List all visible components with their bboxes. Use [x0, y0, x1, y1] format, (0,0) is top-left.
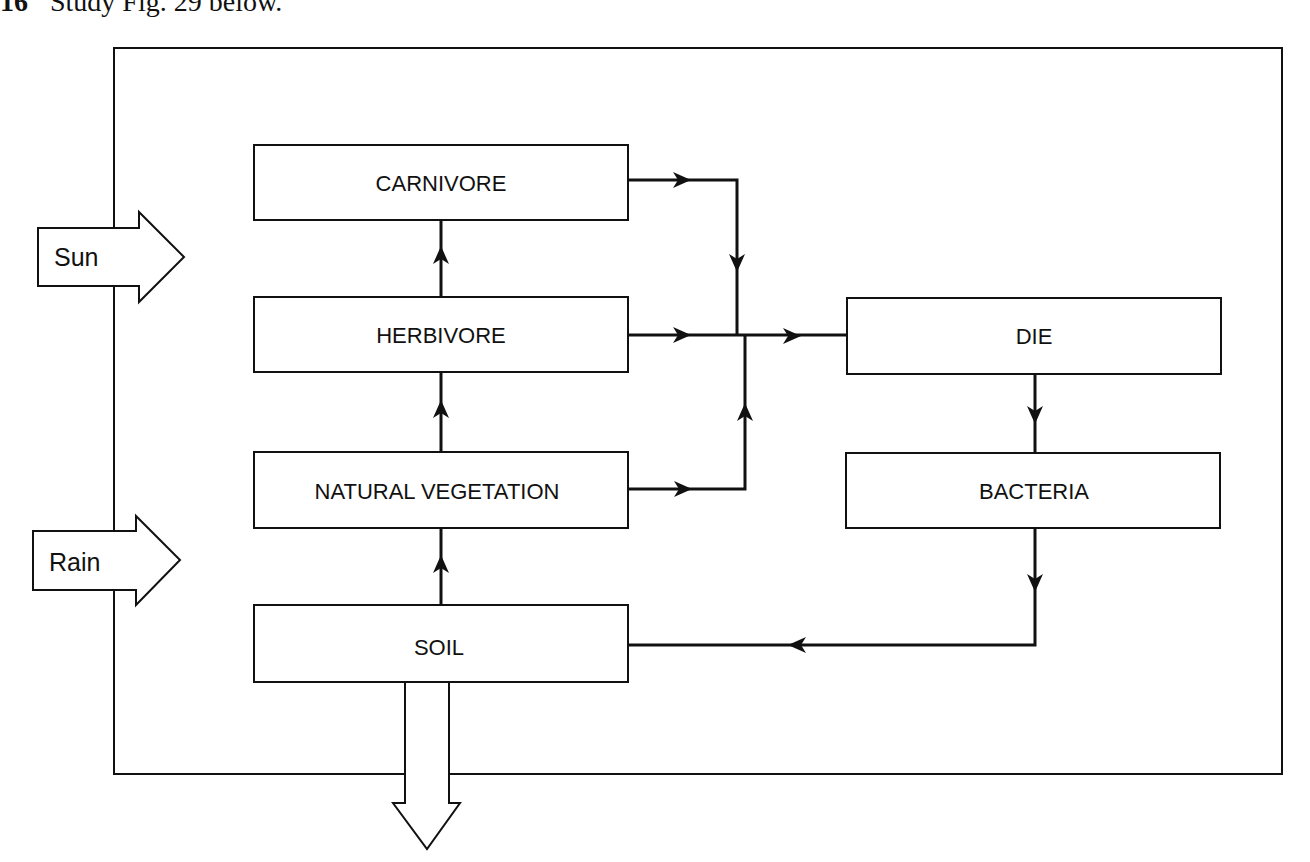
system-boundary [114, 48, 1282, 774]
question-prompt: Study Fig. 29 below. [50, 0, 282, 17]
node-carnivore-label: CARNIVORE [376, 171, 507, 196]
ecosystem-diagram: CARNIVORE HERBIVORE NATURAL VEGETATION S… [0, 0, 1310, 862]
soil-output-arrow [393, 682, 460, 849]
node-soil-label: SOIL [414, 635, 464, 660]
flow-lines [441, 180, 1035, 645]
node-die-label: DIE [1016, 324, 1053, 349]
question-caption: 16Study Fig. 29 below. [0, 0, 282, 20]
sun-label: Sun [54, 243, 98, 271]
node-herbivore-label: HERBIVORE [376, 323, 506, 348]
rain-label: Rain [49, 548, 100, 576]
question-number: 16 [0, 0, 28, 17]
figure-29: 16Study Fig. 29 below. [0, 0, 1310, 862]
node-bacteria-label: BACTERIA [979, 479, 1089, 504]
node-vegetation-label: NATURAL VEGETATION [315, 479, 560, 504]
